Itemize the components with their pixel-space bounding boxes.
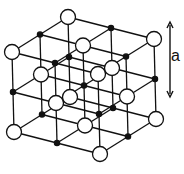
small-ion	[96, 111, 101, 116]
large-ion	[78, 118, 93, 133]
large-ion	[105, 61, 120, 76]
small-ion	[123, 54, 128, 59]
small-ion	[110, 105, 115, 110]
small-ion	[10, 89, 15, 94]
small-ion	[108, 25, 113, 30]
large-ion	[76, 38, 91, 53]
small-ion	[152, 76, 157, 81]
small-ion	[81, 83, 86, 88]
large-ion	[49, 96, 64, 111]
small-ion	[66, 54, 71, 59]
large-ion	[149, 112, 164, 127]
large-ion	[63, 90, 78, 105]
large-ion	[93, 147, 108, 162]
dimension-label-a: a	[171, 47, 180, 65]
large-ion	[120, 89, 135, 104]
large-ion	[34, 67, 49, 82]
large-ion	[5, 45, 20, 60]
small-ion	[54, 140, 59, 145]
lattice-diagram: a	[0, 0, 184, 174]
small-ion	[52, 60, 57, 65]
large-ion	[147, 32, 162, 47]
large-ion	[7, 125, 22, 140]
crystal-lattice-graphic	[0, 0, 184, 174]
small-ion	[125, 134, 130, 139]
small-ion	[37, 32, 42, 37]
large-ion	[91, 67, 106, 82]
large-ion	[61, 10, 76, 25]
small-ion	[39, 112, 44, 117]
